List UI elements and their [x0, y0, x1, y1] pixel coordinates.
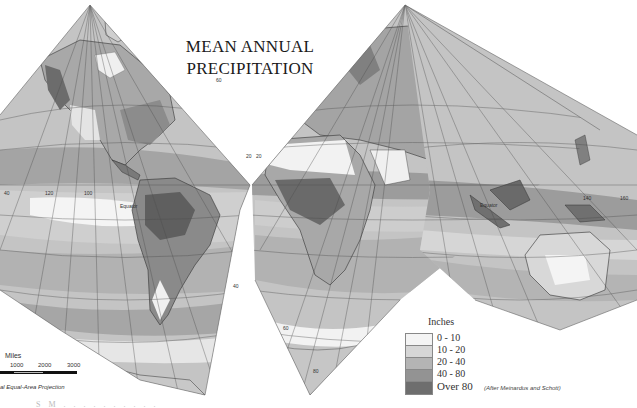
graticule-label: 100 — [84, 190, 92, 196]
title-line-2: PRECIPITATION — [150, 58, 350, 80]
scale-title: Miles — [5, 352, 21, 359]
graticule-label: 120 — [45, 190, 53, 196]
graticule-label: 160 — [620, 195, 628, 201]
scale-tick: 1000 — [10, 362, 23, 368]
graticule-label: 40 — [4, 190, 10, 196]
scale-bar-segment — [0, 371, 14, 374]
legend-label: 20 - 40 — [437, 356, 465, 367]
scale-tick: 2000 — [38, 362, 51, 368]
graticule-label: 20 — [256, 153, 262, 159]
scale-bar-segment — [43, 371, 77, 374]
projection-label: al Equal-Area Projection — [0, 384, 65, 390]
legend-label: 10 - 20 — [437, 344, 465, 355]
legend-title: Inches — [428, 316, 454, 327]
legend-label: 0 - 10 — [437, 332, 460, 343]
map-credit: (After Meinardus and Schott) — [484, 385, 561, 391]
graticule-label: 40 — [233, 283, 239, 289]
equator-label-east: Equator — [480, 202, 498, 208]
legend-item: Over 80 — [405, 381, 485, 393]
graticule-label: 20 — [246, 153, 252, 159]
graticule-label: 80 — [313, 368, 319, 374]
legend-swatch — [405, 381, 433, 395]
scale-tick: 3000 — [67, 362, 80, 368]
equator-label-west: Equator — [120, 203, 138, 209]
scale-bar-segment — [14, 371, 43, 374]
map-title: MEAN ANNUAL PRECIPITATION — [150, 36, 350, 80]
graticule-label: 140 — [583, 195, 591, 201]
caption-fragment: S M . . . . . . . . . . — [36, 400, 159, 408]
graticule-label: 60 — [283, 325, 289, 331]
legend-label: 40 - 80 — [437, 368, 465, 379]
legend-label: Over 80 — [437, 380, 473, 392]
title-line-1: MEAN ANNUAL — [150, 36, 350, 58]
graticule-label: 60 — [216, 77, 222, 83]
